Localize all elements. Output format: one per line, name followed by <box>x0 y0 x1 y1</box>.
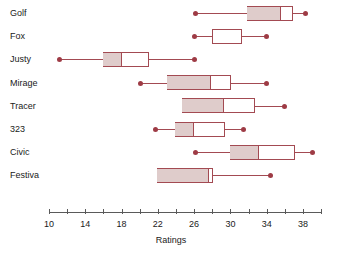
median-line <box>223 98 224 113</box>
x-axis-tick <box>67 209 68 214</box>
x-axis-tick-label: 30 <box>218 219 242 229</box>
x-axis-tick <box>212 209 213 214</box>
category-label-golf: Golf <box>10 8 27 18</box>
median-line <box>121 52 122 67</box>
x-axis-tick <box>267 209 268 214</box>
whisker-left <box>195 13 247 14</box>
category-label-tracer: Tracer <box>10 101 36 111</box>
box-civic <box>230 145 294 160</box>
box-lower-quartile-fill <box>167 75 211 90</box>
whisker-left <box>195 152 230 153</box>
whisker-cap-dot-min <box>193 150 198 155</box>
category-label-civic: Civic <box>10 147 30 157</box>
x-axis-tick-label: 10 <box>37 219 61 229</box>
x-axis-tick-label: 22 <box>146 219 170 229</box>
whisker-cap-dot-min <box>57 57 62 62</box>
box-fox <box>212 29 242 44</box>
x-axis-tick <box>303 209 304 214</box>
whisker-cap-dot-max <box>310 150 315 155</box>
whisker-cap-dot-min <box>138 81 143 86</box>
box-lower-quartile-fill <box>182 98 223 113</box>
box-plot-chart: GolfFoxJustyMirageTracer323CivicFestiva … <box>0 0 342 261</box>
whisker-cap-dot-max <box>303 11 308 16</box>
x-axis-tick-label: 34 <box>255 219 279 229</box>
x-axis-tick <box>122 209 123 214</box>
whisker-cap-dot-max <box>192 57 197 62</box>
median-line <box>193 122 194 137</box>
whisker-right <box>213 175 270 176</box>
whisker-cap-dot-min <box>192 34 197 39</box>
box-mirage <box>167 75 231 90</box>
box-lower-quartile-fill <box>247 6 281 21</box>
category-label-mirage: Mirage <box>10 78 38 88</box>
box-lower-quartile-fill <box>175 122 193 137</box>
box-323 <box>175 122 225 137</box>
whisker-cap-dot-max <box>241 127 246 132</box>
x-axis-tick-label: 26 <box>182 219 206 229</box>
whisker-cap-dot-max <box>268 173 273 178</box>
category-labels: GolfFoxJustyMirageTracer323CivicFestiva <box>0 0 342 261</box>
whisker-left <box>155 129 175 130</box>
whisker-cap-dot-max <box>282 104 287 109</box>
whisker-cap-dot-min <box>153 127 158 132</box>
x-axis-title: Ratings <box>0 235 342 246</box>
x-axis-tick <box>176 209 177 214</box>
box-tracer <box>182 98 255 113</box>
x-axis-tick <box>103 209 104 214</box>
whisker-left <box>194 36 212 37</box>
box-plot-series <box>0 0 342 261</box>
median-line <box>280 6 281 21</box>
box-lower-quartile-fill <box>157 168 208 183</box>
x-axis: 1014182226303438 <box>0 0 342 261</box>
x-axis-tick <box>158 209 159 214</box>
x-axis-tick <box>85 209 86 214</box>
x-axis-tick-label: 14 <box>73 219 97 229</box>
median-line <box>258 145 259 160</box>
whisker-right <box>242 36 266 37</box>
x-axis-tick <box>49 209 50 214</box>
box-justy <box>103 52 148 67</box>
box-lower-quartile-fill <box>103 52 120 67</box>
x-axis-tick-label: 38 <box>291 219 315 229</box>
whisker-right <box>149 59 194 60</box>
x-axis-tick <box>249 209 250 214</box>
median-line <box>208 168 209 183</box>
whisker-right <box>225 129 243 130</box>
box-festiva <box>157 168 213 183</box>
whisker-left <box>141 83 167 84</box>
x-axis-tick <box>194 209 195 214</box>
x-axis-tick-label: 18 <box>110 219 134 229</box>
median-line <box>210 75 211 90</box>
x-axis-line <box>49 212 321 213</box>
whisker-cap-dot-min <box>193 11 198 16</box>
whisker-cap-dot-max <box>264 81 269 86</box>
x-axis-tick <box>285 209 286 214</box>
whisker-right <box>231 83 266 84</box>
whisker-left <box>60 59 104 60</box>
box-lower-quartile-fill <box>230 145 257 160</box>
category-label-justy: Justy <box>10 54 31 64</box>
whisker-right <box>293 13 306 14</box>
whisker-right <box>255 106 285 107</box>
whisker-right <box>295 152 312 153</box>
category-label-fox: Fox <box>10 31 25 41</box>
box-golf <box>247 6 293 21</box>
x-axis-tick <box>230 209 231 214</box>
median-line <box>212 29 213 44</box>
whisker-cap-dot-max <box>264 34 269 39</box>
x-axis-tick <box>140 209 141 214</box>
x-axis-tick <box>321 209 322 214</box>
category-label-festiva: Festiva <box>10 170 39 180</box>
category-label-323: 323 <box>10 124 25 134</box>
